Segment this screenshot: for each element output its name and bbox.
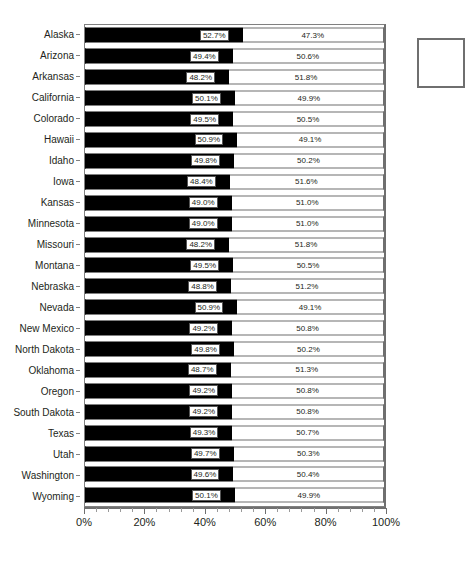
bar-segment-series-a[interactable]: 49.0% [85,216,232,231]
bar-segment-series-a[interactable]: 49.6% [85,467,233,482]
bar-data-label-series-a: 48.4% [187,176,216,187]
stacked-bar[interactable]: 49.5%50.5% [85,258,384,273]
bar-segment-series-b[interactable]: 51.8% [229,70,384,85]
stacked-bar[interactable]: 50.9%49.1% [85,132,384,147]
x-axis-major-tick [144,508,145,514]
bar-data-label-series-b: 51.8% [229,240,383,249]
stacked-bar[interactable]: 49.0%51.0% [85,216,384,231]
category-label-arkansas: Arkansas [0,66,80,87]
bar-segment-series-a[interactable]: 48.2% [85,70,229,85]
bar-segment-series-a[interactable]: 48.4% [85,174,230,189]
bar-segment-series-a[interactable]: 49.3% [85,425,232,440]
bar-data-label-series-a: 49.2% [189,406,218,417]
bar-data-label-series-b: 50.5% [233,261,383,270]
x-axis-label-20pct: 20% [133,516,155,528]
bar-segment-series-b[interactable]: 51.2% [231,279,384,294]
bar-segment-series-a[interactable]: 50.1% [85,91,235,106]
bar-segment-series-a[interactable]: 49.2% [85,404,232,419]
bar-segment-series-a[interactable]: 50.1% [85,488,235,503]
bar-segment-series-b[interactable]: 50.2% [234,342,384,357]
stacked-bar[interactable]: 49.0%51.0% [85,195,384,210]
bar-segment-series-b[interactable]: 50.8% [232,383,384,398]
bar-row: 49.8%50.2% [85,150,384,171]
bar-segment-series-b[interactable]: 51.0% [232,195,384,210]
x-axis-minor-tick [108,508,109,512]
stacked-bar[interactable]: 48.4%51.6% [85,174,384,189]
bar-data-label-series-a: 48.7% [188,364,217,375]
bar-data-label-series-b: 51.8% [229,73,383,82]
x-axis-minor-tick [350,508,351,512]
bar-data-label-series-a: 49.0% [189,197,218,208]
bar-segment-series-b[interactable]: 50.8% [232,321,384,336]
bar-segment-series-a[interactable]: 48.8% [85,279,231,294]
x-axis-minor-tick [277,508,278,512]
stacked-bar[interactable]: 49.4%50.6% [85,49,384,64]
stacked-bar[interactable]: 48.2%51.8% [85,237,384,252]
y-axis-tick [76,286,80,287]
stacked-bar[interactable]: 49.6%50.4% [85,467,384,482]
bar-segment-series-b[interactable]: 50.5% [233,258,384,273]
stacked-bar[interactable]: 48.7%51.3% [85,362,384,377]
bar-segment-series-a[interactable]: 50.9% [85,300,237,315]
stacked-bar[interactable]: 49.8%50.2% [85,153,384,168]
stacked-bar[interactable]: 49.8%50.2% [85,342,384,357]
bar-data-label-series-b: 51.3% [231,365,383,374]
bar-data-label-series-a: 48.2% [186,72,215,83]
bar-segment-series-a[interactable]: 49.2% [85,321,232,336]
bar-segment-series-b[interactable]: 49.9% [235,91,384,106]
bar-segment-series-a[interactable]: 48.2% [85,237,229,252]
stacked-bar[interactable]: 48.8%51.2% [85,279,384,294]
bar-segment-series-b[interactable]: 51.8% [229,237,384,252]
bar-segment-series-a[interactable]: 49.7% [85,446,234,461]
x-axis-ticks [84,508,386,516]
stacked-bar[interactable]: 52.7%47.3% [85,28,384,43]
category-label-kansas: Kansas [0,192,80,213]
stacked-bar[interactable]: 49.2%50.8% [85,383,384,398]
bar-segment-series-b[interactable]: 50.5% [233,112,384,127]
bar-segment-series-a[interactable]: 49.2% [85,383,232,398]
stacked-bar[interactable]: 49.7%50.3% [85,446,384,461]
bar-data-label-series-b: 50.8% [232,407,383,416]
bar-row: 49.7%50.3% [85,443,384,464]
stacked-bar[interactable]: 49.2%50.8% [85,321,384,336]
category-label-washington: Washington [0,465,80,486]
bar-segment-series-a[interactable]: 49.5% [85,258,233,273]
bar-segment-series-a[interactable]: 49.5% [85,112,233,127]
y-axis-tick [76,181,80,182]
bar-segment-series-a[interactable]: 52.7% [85,28,243,43]
stacked-bar[interactable]: 49.3%50.7% [85,425,384,440]
bar-segment-series-b[interactable]: 50.6% [233,49,384,64]
stacked-bar[interactable]: 50.1%49.9% [85,488,384,503]
bar-segment-series-b[interactable]: 51.6% [230,174,384,189]
bar-data-label-series-b: 49.1% [237,303,383,312]
bar-segment-series-b[interactable]: 49.9% [235,488,384,503]
bar-segment-series-b[interactable]: 49.1% [237,300,384,315]
bar-segment-series-b[interactable]: 47.3% [243,28,384,43]
stacked-bar[interactable]: 49.2%50.8% [85,404,384,419]
bar-segment-series-b[interactable]: 51.3% [231,362,384,377]
bar-segment-series-b[interactable]: 51.0% [232,216,384,231]
bar-segment-series-a[interactable]: 50.9% [85,132,237,147]
bar-segment-series-a[interactable]: 49.8% [85,153,234,168]
x-axis-major-tick [326,508,327,514]
bar-data-label-series-a: 49.0% [189,218,218,229]
bar-row: 49.2%50.8% [85,380,384,401]
bar-segment-series-b[interactable]: 50.4% [233,467,384,482]
bar-data-label-series-a: 49.3% [190,427,219,438]
bar-segment-series-b[interactable]: 50.7% [232,425,384,440]
category-axis-labels: AlaskaArizonaArkansasCaliforniaColoradoH… [0,24,80,507]
bar-data-label-series-a: 48.8% [188,281,217,292]
bar-segment-series-b[interactable]: 50.3% [234,446,384,461]
bar-segment-series-b[interactable]: 50.2% [234,153,384,168]
stacked-bar[interactable]: 50.1%49.9% [85,91,384,106]
bar-segment-series-b[interactable]: 49.1% [237,132,384,147]
bar-segment-series-a[interactable]: 49.8% [85,342,234,357]
stacked-bar[interactable]: 50.9%49.1% [85,300,384,315]
stacked-bar[interactable]: 49.5%50.5% [85,112,384,127]
bar-segment-series-a[interactable]: 49.4% [85,49,233,64]
bar-segment-series-a[interactable]: 48.7% [85,362,231,377]
bar-segment-series-a[interactable]: 49.0% [85,195,232,210]
stacked-bar[interactable]: 48.2%51.8% [85,70,384,85]
bar-row: 48.8%51.2% [85,276,384,297]
bar-segment-series-b[interactable]: 50.8% [232,404,384,419]
